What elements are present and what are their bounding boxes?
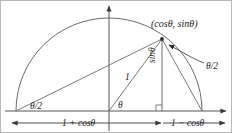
point-marker [160, 37, 164, 41]
angle-half-right-label: θ/2 [206, 62, 218, 72]
angle-half-left-label: θ/2 [30, 102, 42, 112]
sine-length-label: sinθ [148, 47, 158, 63]
radius-length-label: 1 [125, 73, 130, 83]
right-angle-marker [156, 105, 162, 111]
dimension-left-label: 1 + cosθ [62, 119, 95, 129]
point-coordinate-label: (cosθ, sinθ) [151, 19, 197, 29]
chord-point-to-right [162, 39, 202, 111]
angle-theta-label: θ [118, 101, 123, 111]
dimension-right-label: 1 − cosθ [171, 119, 204, 129]
half-angle-diagram: (cosθ, sinθ) θ/2 θ/2 θ 1 sinθ 1 + cosθ 1… [0, 0, 232, 133]
